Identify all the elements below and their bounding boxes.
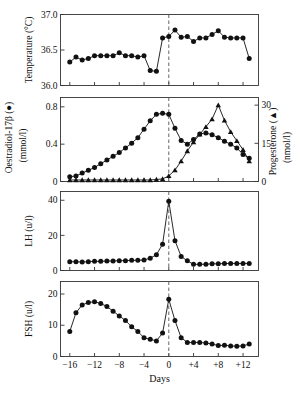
x-ticks-temperature: [70, 82, 243, 86]
data-point-temperature: [222, 35, 227, 40]
data-point-fsh: [166, 297, 171, 302]
panel-temperature: 37.036.536.0: [41, 10, 259, 91]
data-point-lh: [166, 199, 171, 204]
x-tick-label: +4: [188, 360, 198, 370]
axis-title-progesterone-units: (nmol/l): [282, 132, 293, 163]
data-point-progesterone: [178, 159, 183, 164]
data-point-fsh: [73, 310, 78, 315]
y-tick-label: 40: [48, 195, 58, 205]
data-point-fsh: [234, 344, 239, 349]
data-point-temperature: [166, 34, 171, 39]
data-point-lh: [179, 254, 184, 259]
series-fsh: [67, 297, 251, 349]
data-point-temperature: [111, 53, 116, 58]
data-point-temperature: [73, 55, 78, 60]
y-tick-label: 0: [53, 266, 58, 276]
data-point-temperature: [160, 35, 165, 40]
data-point-lh: [86, 259, 91, 264]
data-point-fsh: [241, 343, 246, 348]
data-point-oestradiol: [123, 145, 128, 150]
y-tick-label: 0: [53, 352, 58, 362]
data-point-oestradiol: [166, 112, 171, 117]
panel-frame-lh: [61, 192, 259, 271]
x-tick-label: −4: [139, 360, 149, 370]
x-tick-label: −16: [62, 360, 77, 370]
data-point-temperature: [203, 35, 208, 40]
data-point-temperature: [129, 53, 134, 58]
data-point-lh: [191, 262, 196, 267]
data-point-fsh: [222, 343, 227, 348]
data-point-lh: [123, 258, 128, 263]
x-tick-label: 0: [166, 360, 171, 370]
y-tick-label: 37.0: [41, 10, 58, 20]
x-ticks-lh: [70, 267, 243, 271]
data-point-oestradiol: [135, 135, 140, 140]
data-point-lh: [222, 261, 227, 266]
data-point-temperature: [185, 34, 190, 39]
data-point-temperature: [179, 35, 184, 40]
data-point-oestradiol: [80, 171, 85, 176]
y-tick-label: 36.5: [41, 45, 58, 55]
y-tick-label: 0: [53, 177, 58, 187]
y-tick-label: 0.8: [46, 102, 58, 112]
data-point-temperature: [247, 56, 252, 61]
data-point-temperature: [172, 28, 177, 33]
data-point-temperature: [92, 53, 97, 58]
x-ticks-fsh: [70, 353, 243, 357]
data-point-oestradiol: [179, 138, 184, 143]
data-point-oestradiol: [228, 142, 233, 147]
x-tick-label: +8: [213, 360, 223, 370]
data-point-progesterone: [185, 148, 190, 153]
data-point-lh: [142, 257, 147, 262]
data-point-progesterone: [172, 167, 177, 172]
data-point-oestradiol: [222, 139, 227, 144]
x-tick-label: −8: [114, 360, 124, 370]
data-point-lh: [80, 260, 85, 265]
data-point-temperature: [142, 53, 147, 58]
data-point-temperature: [234, 35, 239, 40]
data-point-fsh: [142, 335, 147, 340]
series-temperature: [67, 28, 251, 74]
data-point-lh: [216, 261, 221, 266]
data-point-fsh: [148, 337, 153, 342]
data-point-lh: [135, 258, 140, 263]
data-point-lh: [160, 242, 165, 247]
data-point-fsh: [135, 329, 140, 334]
data-point-fsh: [123, 318, 128, 323]
data-point-oestradiol: [142, 127, 147, 132]
data-point-lh: [228, 261, 233, 266]
data-point-oestradiol: [172, 126, 177, 131]
data-point-lh: [92, 259, 97, 264]
data-point-oestradiol: [129, 141, 134, 146]
data-point-oestradiol: [104, 158, 109, 163]
data-point-lh: [148, 256, 153, 261]
data-point-temperature: [210, 32, 215, 37]
data-point-oestradiol: [210, 132, 215, 137]
axis-title-oestradiol-units: (mmol/l): [18, 129, 29, 163]
data-point-lh: [185, 258, 190, 263]
data-point-oestradiol: [117, 150, 122, 155]
data-point-temperature: [98, 53, 103, 58]
data-point-temperature: [67, 60, 72, 65]
data-point-oestradiol: [160, 111, 165, 116]
data-point-fsh: [160, 331, 165, 336]
y-axis-left-temperature: 37.036.536.0: [41, 10, 65, 91]
x-tick-label: +12: [236, 360, 251, 370]
data-point-lh: [129, 258, 134, 263]
axis-title-oestradiol: Oestradiol-17β (●): [4, 102, 15, 174]
data-point-oestradiol: [216, 135, 221, 140]
data-point-fsh: [111, 309, 116, 314]
data-point-lh: [104, 259, 109, 264]
data-point-temperature: [80, 57, 85, 62]
data-point-oestradiol: [92, 165, 97, 170]
axis-title-progesterone: Progesterone (▲): [268, 108, 279, 176]
data-point-lh: [197, 262, 202, 267]
data-point-temperature: [135, 55, 140, 60]
data-point-fsh: [172, 318, 177, 323]
axis-title-fsh: FSH (u/l): [24, 301, 35, 337]
data-point-fsh: [247, 342, 252, 347]
data-point-progesterone: [216, 103, 221, 108]
data-point-fsh: [92, 299, 97, 304]
data-point-fsh: [197, 340, 202, 345]
data-point-oestradiol: [98, 161, 103, 166]
